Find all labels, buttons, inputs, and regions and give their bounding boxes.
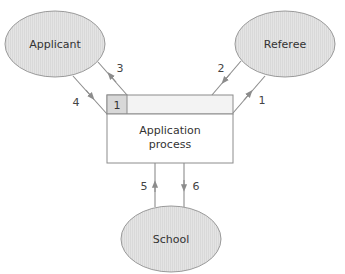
arrow-4: 4 (73, 76, 108, 114)
process-label-line2: process (149, 138, 192, 151)
arrow-2: 2 (212, 61, 241, 95)
application-process-box[interactable]: 1 Application process (107, 95, 233, 163)
school-label: School (153, 233, 190, 246)
arrow-6: 6 (184, 163, 200, 207)
school-node[interactable]: School (121, 206, 221, 272)
process-tab-label: 1 (114, 99, 121, 112)
arrow-1-label: 1 (259, 94, 266, 107)
arrow-5-label: 5 (141, 180, 148, 193)
arrow-4-label: 4 (73, 96, 80, 109)
applicant-label: Applicant (29, 38, 81, 51)
process-label-line1: Application (139, 124, 200, 137)
referee-node[interactable]: Referee (235, 11, 335, 77)
arrow-2-label: 2 (218, 62, 225, 75)
arrow-3: 3 (98, 62, 127, 95)
arrow-3-label: 3 (117, 62, 124, 75)
arrow-6-label: 6 (193, 180, 200, 193)
arrow-1: 1 (233, 76, 266, 113)
referee-label: Referee (264, 38, 307, 51)
applicant-node[interactable]: Applicant (5, 11, 105, 77)
arrow-5: 5 (141, 163, 156, 207)
diagram-canvas: Applicant Referee School 1 Application p… (0, 0, 345, 274)
